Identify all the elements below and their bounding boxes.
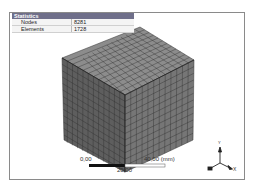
statistics-row-elements: Elements 1728 [12,26,134,33]
scale-middle-label: 20,00 [117,167,132,173]
nodes-label: Nodes [12,19,72,25]
scale-left-label: 0,00 [80,156,92,162]
statistics-row-nodes: Nodes 8281 [12,19,134,26]
elements-value: 1728 [72,26,86,32]
scale-right-label: 40,00 (mm) [144,156,175,162]
triad-y-label: Y [218,140,221,145]
axis-triad [208,147,233,170]
triad-x-label: X [233,166,236,172]
nodes-value: 8281 [72,19,86,25]
statistics-panel: Statistics Nodes 8281 Elements 1728 [12,13,134,33]
elements-label: Elements [12,26,72,32]
